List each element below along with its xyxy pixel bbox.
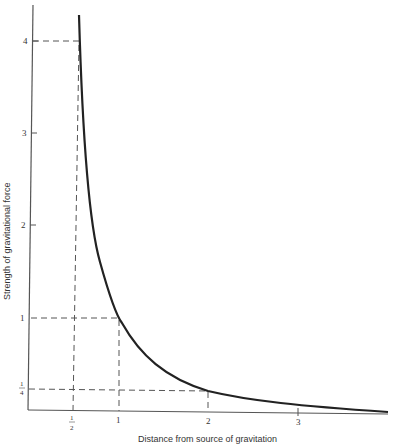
guide-half-4 [33,41,79,411]
y-label-3: 3 [22,128,27,138]
x-label-half-num: 1 [70,414,74,422]
x-axis-title: Distance from source of gravitation [138,434,277,444]
y-label-4: 4 [23,36,28,46]
gravitation-chart: 4 3 2 1 1 4 1 2 1 2 3 Distance from sour… [0,0,400,448]
inverse-square-curve [79,15,388,412]
y-label-quarter-den: 4 [20,389,24,397]
x-label-1: 1 [116,415,121,425]
y-axis-title: Strength of gravitational force [2,182,12,300]
guide-1-1 [31,318,119,411]
x-label-3: 3 [296,417,301,427]
y-label-quarter-num: 1 [20,380,24,388]
x-label-2: 2 [206,416,211,426]
y-axis [28,5,33,410]
guide-lines [29,41,208,412]
x-label-half-den: 2 [70,424,74,432]
y-label-1: 1 [20,313,25,323]
y-label-2: 2 [21,220,26,230]
